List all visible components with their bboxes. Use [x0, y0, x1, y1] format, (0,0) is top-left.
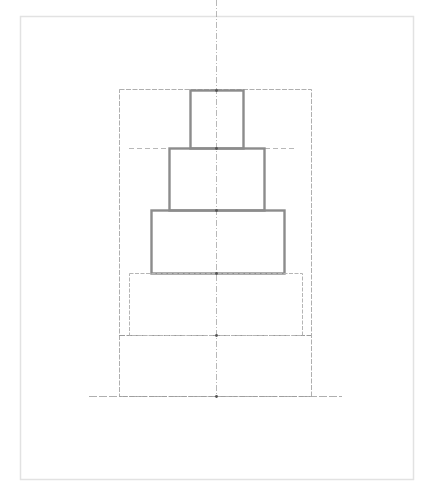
- axis-node: [215, 209, 218, 212]
- axis-node: [215, 89, 218, 92]
- tier-third: [152, 211, 285, 274]
- outer-frame: [21, 17, 414, 480]
- axis-node: [215, 272, 218, 275]
- tier-second: [170, 149, 265, 211]
- tier-top: [191, 91, 244, 149]
- axis-node: [215, 395, 218, 398]
- axis-node: [215, 147, 218, 150]
- cake-sketch-diagram: [0, 0, 435, 496]
- axis-node: [215, 334, 218, 337]
- bounding-box: [120, 90, 312, 397]
- tier-bottom: [130, 274, 303, 336]
